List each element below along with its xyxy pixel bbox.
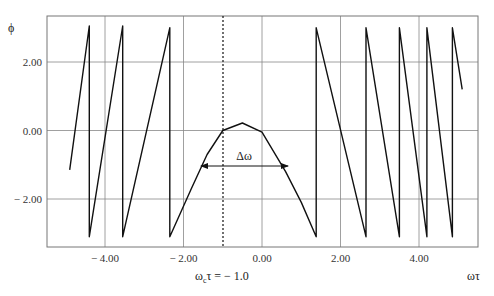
phase-curve [70, 26, 463, 237]
svg-text:4.00: 4.00 [409, 252, 429, 264]
svg-text:− 2.00: − 2.00 [14, 193, 43, 205]
svg-text:0.00: 0.00 [252, 252, 272, 264]
x-axis-label: ωτ [467, 269, 480, 283]
svg-text:0.00: 0.00 [23, 125, 43, 137]
y-axis-label: ϕ [8, 21, 14, 35]
svg-text:2.00: 2.00 [331, 252, 351, 264]
svg-text:− 2.00: − 2.00 [169, 252, 198, 264]
delta-omega-label: Δω [236, 149, 252, 163]
x-tick-labels: − 4.00− 2.000.002.004.00 [91, 252, 429, 264]
svg-text:− 4.00: − 4.00 [91, 252, 120, 264]
phase-plot: Δω 2.000.00− 2.00 − 4.00− 2.000.002.004.… [0, 0, 494, 296]
center-frequency-label: ωcτ = − 1.0 [195, 269, 249, 285]
y-tick-labels: 2.000.00− 2.00 [14, 56, 43, 205]
svg-text:2.00: 2.00 [23, 56, 43, 68]
